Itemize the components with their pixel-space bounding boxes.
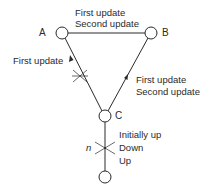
arrow-up-left-icon [69, 55, 74, 62]
edge-cd-label-2: Down [119, 142, 143, 154]
edge-ab-label-2: Second update [75, 18, 139, 30]
edge-cb-label-1: First update [136, 74, 186, 86]
network-diagram: A B C First update Second update First u… [0, 0, 207, 193]
edge-ca-label-1: First update [13, 55, 63, 67]
link-n-label: n [86, 142, 91, 154]
link-failure-cross-icon [72, 70, 88, 82]
node-a [56, 27, 68, 39]
edge-c-a [65, 38, 102, 111]
link-n-point [104, 147, 106, 149]
node-b [145, 27, 157, 39]
arrow-up-right-icon [124, 74, 128, 80]
node-c-label: C [115, 110, 122, 122]
node-d [99, 171, 111, 183]
node-c [99, 110, 111, 122]
edge-cb-label-2: Second update [136, 86, 200, 98]
edge-cd-label-3: Up [119, 155, 131, 167]
edge-cd-label-1: Initially up [119, 129, 161, 141]
node-b-label: B [162, 27, 169, 39]
node-a-label: A [39, 27, 46, 39]
